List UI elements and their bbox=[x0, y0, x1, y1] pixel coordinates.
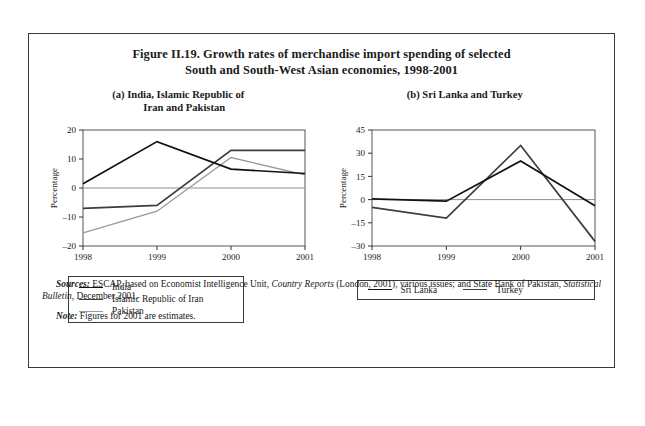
plot-frame bbox=[372, 130, 595, 246]
figure-title-line-1: Figure II.19. Growth rates of merchandis… bbox=[29, 46, 614, 62]
figure-title-line-2: South and South-West Asian economies, 19… bbox=[29, 62, 614, 78]
x-tick-label: 2001 bbox=[586, 252, 604, 262]
panel-b-title-line-1: (b) Sri Lanka and Turkey bbox=[322, 88, 609, 101]
y-tick-label: 15 bbox=[356, 172, 366, 182]
y-tick-label: –15 bbox=[350, 218, 365, 228]
x-tick-label: 1998 bbox=[74, 252, 93, 262]
notes-block: Sources: ESCAP, based on Economist Intel… bbox=[29, 278, 614, 329]
panel-a-title-line-2: Iran and Pakistan bbox=[35, 101, 322, 114]
sources-note: Sources: ESCAP, based on Economist Intel… bbox=[42, 278, 601, 303]
sources-label: Sources: bbox=[56, 279, 90, 289]
panel-a-title-line-1: (a) India, Islamic Republic of bbox=[35, 88, 322, 101]
x-tick-label: 2000 bbox=[511, 252, 530, 262]
y-tick-label: –10 bbox=[62, 212, 77, 222]
y-tick-label: 0 bbox=[72, 183, 77, 193]
panel-b-title: (b) Sri Lanka and Turkey bbox=[322, 88, 609, 116]
y-axis-title: Percentage bbox=[338, 168, 348, 208]
x-tick-label: 2000 bbox=[222, 252, 241, 262]
y-tick-label: 30 bbox=[356, 148, 366, 158]
figure-container: Figure II.19. Growth rates of merchandis… bbox=[28, 33, 615, 368]
x-tick-label: 1999 bbox=[437, 252, 456, 262]
panel-a-title: (a) India, Islamic Republic of Iran and … bbox=[35, 88, 322, 116]
panel-b-svg: 4530150–15–301998199920002001Percentage bbox=[322, 122, 607, 268]
series-line-islamic-republic-of-iran bbox=[83, 150, 305, 208]
y-tick-label: 10 bbox=[67, 154, 77, 164]
note-label: Note: bbox=[56, 311, 77, 321]
sources-text-3: December 2001. bbox=[76, 291, 138, 301]
sources-italic-1: Country Reports bbox=[271, 279, 333, 289]
series-line-pakistan bbox=[83, 158, 305, 233]
x-tick-label: 1998 bbox=[363, 252, 382, 262]
y-axis-title: Percentage bbox=[49, 168, 59, 208]
y-tick-label: 45 bbox=[356, 125, 366, 135]
sources-text-2: (London, 2001), various issues; and Stat… bbox=[336, 279, 561, 289]
note-text: Figures for 2001 are estimates. bbox=[80, 311, 196, 321]
sources-text-1: ESCAP, based on Economist Intelligence U… bbox=[92, 279, 269, 289]
y-tick-label: –30 bbox=[350, 241, 365, 251]
x-tick-label: 1999 bbox=[148, 252, 167, 262]
figure-title: Figure II.19. Growth rates of merchandis… bbox=[29, 46, 614, 78]
y-tick-label: 0 bbox=[360, 195, 365, 205]
panel-a-svg: 20100–10–201998199920002001Percentage bbox=[35, 122, 315, 268]
panel-b-plot: 4530150–15–301998199920002001Percentage bbox=[322, 122, 609, 268]
y-tick-label: –20 bbox=[62, 241, 77, 251]
x-tick-label: 2001 bbox=[296, 252, 314, 262]
y-tick-label: 20 bbox=[67, 125, 77, 135]
series-line-turkey bbox=[372, 145, 595, 241]
figure-note: Note: Figures for 2001 are estimates. bbox=[42, 310, 601, 322]
panel-a-plot: 20100–10–201998199920002001Percentage bbox=[35, 122, 322, 268]
